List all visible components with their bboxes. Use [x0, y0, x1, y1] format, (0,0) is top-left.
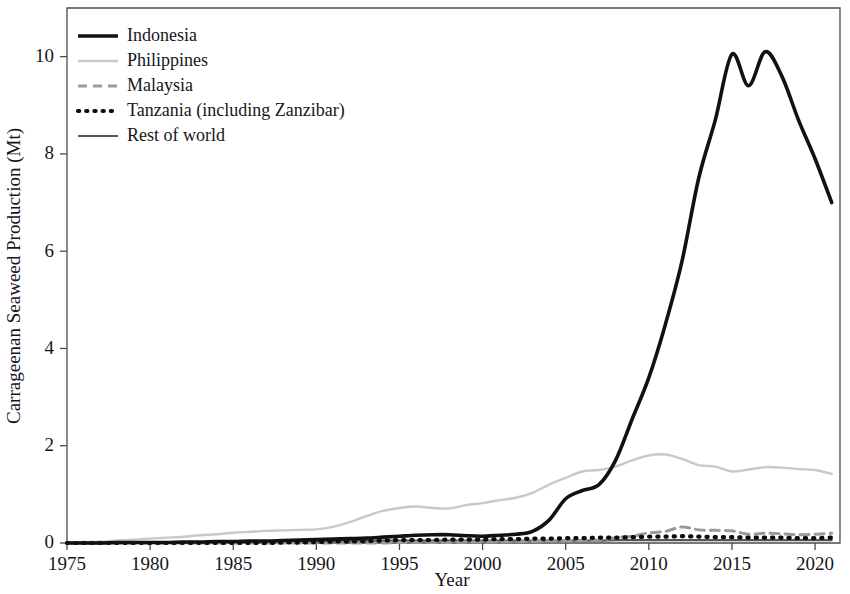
y-tick-label: 2: [45, 434, 55, 455]
y-tick-label: 0: [45, 531, 55, 552]
legend-label: Rest of world: [127, 125, 225, 145]
x-tick-label: 2010: [630, 553, 668, 574]
legend-item: Malaysia: [78, 75, 193, 95]
y-tick-label: 8: [45, 142, 55, 163]
x-tick-label: 2005: [547, 553, 585, 574]
x-tick-label: 2020: [796, 553, 834, 574]
x-tick-label: 1980: [131, 553, 169, 574]
y-tick-label: 10: [35, 45, 54, 66]
legend-item: Indonesia: [78, 25, 197, 45]
legend-label: Philippines: [127, 50, 208, 70]
legend-item: Tanzania (including Zanzibar): [78, 100, 345, 121]
legend-item: Philippines: [78, 50, 208, 70]
x-tick-label: 1985: [214, 553, 252, 574]
legend-label: Malaysia: [127, 75, 193, 95]
legend-item: Rest of world: [78, 125, 225, 145]
y-tick-label: 4: [45, 337, 55, 358]
x-tick-label: 2015: [713, 553, 751, 574]
x-tick-label: 1990: [297, 553, 335, 574]
x-axis-title: Year: [434, 569, 470, 590]
chart-container: 0246810197519801985199019952000200520102…: [0, 0, 850, 594]
carrageenan-production-line-chart: 0246810197519801985199019952000200520102…: [0, 0, 850, 594]
legend-label: Indonesia: [127, 25, 197, 45]
x-tick-label: 1995: [380, 553, 418, 574]
y-tick-label: 6: [45, 240, 55, 261]
y-axis-title: Carrageenan Seaweed Production (Mt): [3, 128, 25, 424]
chart-legend: IndonesiaPhilippinesMalaysiaTanzania (in…: [78, 25, 345, 145]
x-tick-label: 1975: [48, 553, 86, 574]
legend-label: Tanzania (including Zanzibar): [127, 100, 345, 121]
